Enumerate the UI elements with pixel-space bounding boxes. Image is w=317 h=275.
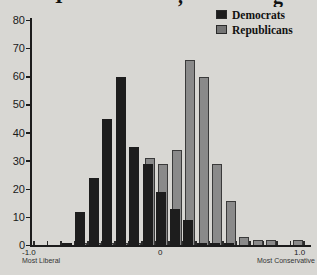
x-tick-label-right: 1.0 (294, 248, 305, 257)
legend-label-democrats: Democrats (232, 9, 285, 21)
bar-democrats-bin-8 (143, 164, 153, 246)
x-sublabel-most-conservative: Most Conservative (257, 257, 315, 265)
legend-swatch-democrats-icon (216, 10, 227, 19)
bar-republicans-bin-11 (185, 60, 195, 246)
legend-item-republicans: Republicans (216, 22, 293, 37)
legend: Democrats Republicans (216, 7, 293, 37)
y-tick-label: 80 (0, 14, 25, 27)
bar-democrats-bin-11 (183, 220, 193, 245)
y-tick (26, 217, 31, 219)
x-tick-label-left: -1.0 (22, 248, 36, 257)
bar-democrats-bin-9 (156, 192, 166, 245)
title-fragment-0: I (55, 0, 63, 6)
cropped-chart-title: I,g (0, 0, 317, 7)
y-tick-label: 50 (0, 98, 25, 111)
y-tick-label: 40 (0, 127, 25, 140)
y-tick (26, 20, 31, 22)
bar-republicans-bin-14 (226, 201, 236, 246)
y-tick (26, 104, 31, 106)
y-tick (26, 132, 31, 134)
bar-republicans-bin-13 (212, 164, 222, 246)
legend-label-republicans: Republicans (232, 24, 293, 36)
bar-democrats-bin-5 (102, 119, 112, 246)
y-tick (26, 160, 31, 162)
bar-democrats-bin-3 (75, 212, 85, 246)
y-tick (26, 189, 31, 191)
bar-democrats-bin-6 (116, 77, 126, 246)
polarization-histogram-chart: I,g 01020304050607080 -1.0 Most Liberal … (0, 0, 317, 275)
y-tick-label: 10 (0, 211, 25, 224)
y-tick-label: 60 (0, 70, 25, 83)
y-tick-label: 70 (0, 42, 25, 55)
legend-item-democrats: Democrats (216, 7, 293, 22)
bar-democrats-bin-10 (170, 209, 180, 246)
x-sublabel-most-liberal: Most Liberal (22, 257, 60, 265)
legend-swatch-republicans-icon (216, 25, 227, 34)
title-fragment-1: , (178, 0, 183, 6)
y-tick (26, 48, 31, 50)
title-fragment-2: g (273, 0, 283, 6)
y-tick-label: 30 (0, 155, 25, 168)
y-tick-label: 20 (0, 183, 25, 196)
bar-democrats-bin-7 (129, 147, 139, 245)
y-tick (26, 76, 31, 78)
bar-democrats-bin-4 (89, 178, 99, 246)
bar-republicans-bin-12 (199, 77, 209, 246)
x-axis (30, 245, 311, 247)
x-tick-label-center: 0 (158, 248, 162, 257)
